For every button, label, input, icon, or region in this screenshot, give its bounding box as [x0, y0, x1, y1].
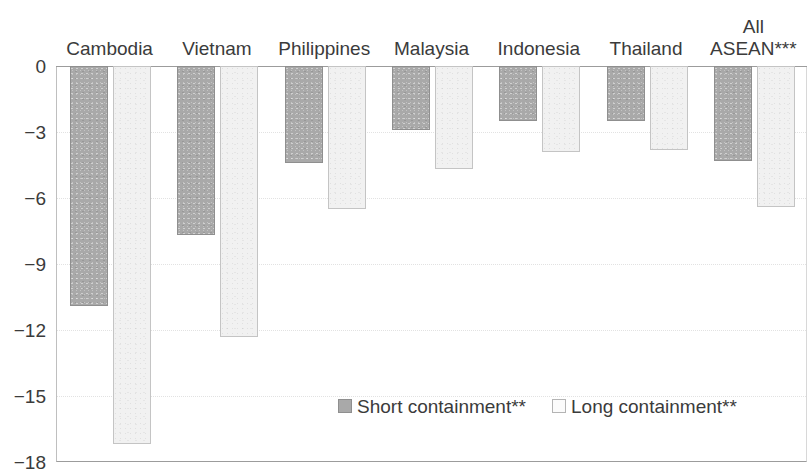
y-axis-tick-label: 0 — [35, 57, 46, 76]
x-axis-category-labels: CambodiaVietnamPhilippinesMalaysiaIndone… — [56, 0, 807, 66]
x-axis-category-label: Thailand — [592, 38, 699, 60]
y-axis-tick-label: −6 — [24, 189, 46, 208]
gridline — [57, 330, 806, 331]
y-axis-tick-label: −15 — [14, 387, 46, 406]
bar-long-containment — [757, 66, 795, 207]
bar-long-containment — [542, 66, 580, 152]
zero-baseline — [56, 66, 807, 67]
bar-short-containment — [70, 66, 108, 306]
bar-short-containment — [499, 66, 537, 121]
legend-label: Short containment** — [357, 397, 526, 416]
gridline — [57, 198, 806, 199]
y-axis-tick-label: −12 — [14, 321, 46, 340]
legend-item[interactable]: Long containment** — [552, 397, 737, 416]
gridline — [57, 132, 806, 133]
bar-long-containment — [650, 66, 688, 150]
x-axis-category-label: Cambodia — [56, 38, 163, 60]
bar-long-containment — [113, 66, 151, 444]
bar-short-containment — [392, 66, 430, 130]
gridline — [57, 264, 806, 265]
y-axis-tick-label: −9 — [24, 255, 46, 274]
x-axis-category-label: Malaysia — [378, 38, 485, 60]
y-axis-tick-label: −3 — [24, 123, 46, 142]
bar-short-containment — [177, 66, 215, 235]
bar-short-containment — [607, 66, 645, 121]
bar-short-containment — [285, 66, 323, 163]
bar-long-containment — [220, 66, 258, 337]
x-axis-category-label: Indonesia — [485, 38, 592, 60]
bar-long-containment — [435, 66, 473, 169]
bar-short-containment — [714, 66, 752, 161]
x-axis-category-label: Vietnam — [163, 38, 270, 60]
x-axis-category-label: Philippines — [271, 38, 378, 60]
bar-chart: 0−3−6−9−12−15−18 CambodiaVietnamPhilippi… — [0, 0, 811, 472]
legend-label: Long containment** — [571, 397, 737, 416]
y-axis: 0−3−6−9−12−15−18 — [0, 0, 52, 472]
y-axis-tick-label: −18 — [14, 453, 46, 472]
x-axis-category-label: All ASEAN*** — [700, 16, 807, 60]
bar-long-containment — [328, 66, 366, 209]
legend-swatch-long-icon — [552, 399, 566, 413]
legend-item[interactable]: Short containment** — [338, 397, 526, 416]
legend-swatch-short-icon — [338, 399, 352, 413]
chart-legend: Short containment**Long containment** — [338, 393, 737, 419]
